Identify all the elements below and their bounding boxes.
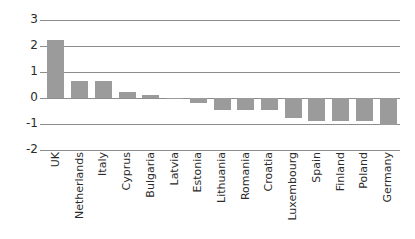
bar[interactable]: [308, 98, 325, 121]
bar[interactable]: [190, 98, 207, 103]
gridline: [44, 150, 400, 151]
bar[interactable]: [332, 98, 349, 121]
x-axis-tick-label: Croatia: [263, 152, 274, 192]
x-axis-tick-label: Cyprus: [121, 152, 132, 190]
x-axis-tick-label: Italy: [97, 152, 108, 176]
y-axis-tick-label: 0: [0, 91, 38, 103]
x-axis-tick-label: Bulgaria: [145, 152, 156, 198]
x-axis-tick-label: Finland: [335, 152, 346, 191]
bar[interactable]: [380, 98, 397, 125]
bar[interactable]: [95, 81, 112, 98]
x-axis-tick-label: Lithuania: [216, 152, 227, 203]
y-axis-tick-label: -1: [0, 117, 38, 129]
x-axis-labels: UKNetherlandsItalyCyprusBulgariaLatviaEs…: [44, 152, 400, 239]
bar[interactable]: [166, 98, 183, 99]
bar[interactable]: [47, 40, 64, 98]
x-axis-tick-label: Romania: [240, 152, 251, 200]
y-axis-tick-label: 2: [0, 39, 38, 51]
x-axis-tick-label: Latvia: [169, 152, 180, 186]
bar[interactable]: [142, 95, 159, 98]
bar[interactable]: [237, 98, 254, 110]
bar[interactable]: [261, 98, 278, 110]
x-axis-tick-label: Luxembourg: [287, 152, 298, 221]
bars-layer: [44, 20, 400, 150]
x-axis-tick-label: Spain: [311, 152, 322, 183]
bar[interactable]: [119, 92, 136, 99]
bar-chart: 3210-1-2 UKNetherlandsItalyCyprusBulgari…: [0, 0, 415, 239]
bar[interactable]: [71, 81, 88, 98]
bar[interactable]: [214, 98, 231, 110]
x-axis-tick-label: Estonia: [192, 152, 203, 193]
x-axis-tick-label: Germany: [382, 152, 393, 203]
bar[interactable]: [285, 98, 302, 118]
y-axis-tick: [40, 150, 44, 151]
y-axis-tick-label: 3: [0, 13, 38, 25]
x-axis-tick-label: UK: [50, 152, 61, 167]
y-axis-tick-label: 1: [0, 65, 38, 77]
x-axis-tick-label: Netherlands: [74, 152, 85, 219]
x-axis-tick-label: Poland: [358, 152, 369, 189]
y-axis-tick-label: -2: [0, 143, 38, 155]
bar[interactable]: [356, 98, 373, 121]
